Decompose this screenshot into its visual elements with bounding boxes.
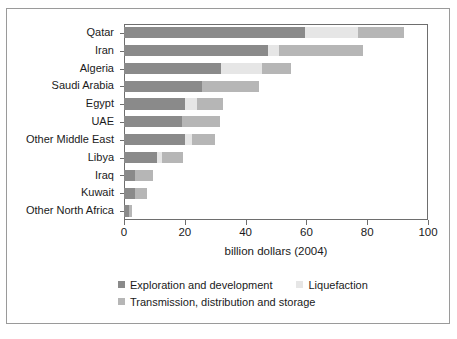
legend-swatch-icon	[118, 298, 125, 305]
y-axis-label: Algeria	[0, 60, 120, 78]
bar-segment[interactable]	[124, 116, 182, 127]
y-axis-label: Saudi Arabia	[0, 77, 120, 95]
legend-item-exploration-and-development[interactable]: Exploration and development	[118, 279, 272, 291]
legend-row-2: Transmission, distribution and storage	[118, 293, 438, 310]
y-axis-label: Libya	[0, 149, 120, 167]
stacked-bar[interactable]	[124, 152, 183, 163]
bar-row	[124, 131, 428, 149]
bar-row	[124, 184, 428, 202]
x-axis-title: billion dollars (2004)	[124, 245, 428, 257]
bar-segment[interactable]	[124, 81, 202, 92]
stacked-bar[interactable]	[124, 170, 153, 181]
bar-row	[124, 24, 428, 42]
y-axis-label: Iran	[0, 42, 120, 60]
bar-segment[interactable]	[124, 45, 268, 56]
y-axis-label: Iraq	[0, 167, 120, 185]
bar-row	[124, 95, 428, 113]
bar-segment[interactable]	[262, 63, 291, 74]
x-axis-tick-label: 100	[418, 226, 437, 238]
legend-item-transmission-distribution-and-storage[interactable]: Transmission, distribution and storage	[118, 296, 315, 308]
bar-segment[interactable]	[221, 63, 262, 74]
x-axis-tick	[367, 220, 368, 225]
stacked-bar[interactable]	[124, 98, 223, 109]
bar-row	[124, 202, 428, 220]
bar-segment[interactable]	[124, 152, 157, 163]
bar-segment[interactable]	[305, 27, 358, 38]
bars-container	[124, 24, 428, 220]
bar-segment[interactable]	[192, 134, 215, 145]
bar-segment[interactable]	[182, 116, 220, 127]
x-axis-tick	[306, 220, 307, 225]
bar-segment[interactable]	[185, 98, 197, 109]
bar-row	[124, 167, 428, 185]
y-axis-category-labels: QatarIranAlgeriaSaudi ArabiaEgyptUAEOthe…	[0, 24, 120, 220]
y-axis-label: Other North Africa	[0, 202, 120, 220]
legend-swatch-icon	[296, 281, 303, 288]
x-axis-tick	[246, 220, 247, 225]
bar-row	[124, 60, 428, 78]
bar-segment[interactable]	[129, 205, 132, 216]
stacked-bar[interactable]	[124, 45, 363, 56]
y-axis-label: UAE	[0, 113, 120, 131]
bar-segment[interactable]	[197, 98, 223, 109]
y-axis-label: Egypt	[0, 95, 120, 113]
x-axis-tick-label: 80	[361, 226, 374, 238]
chart-figure: QatarIranAlgeriaSaudi ArabiaEgyptUAEOthe…	[0, 0, 457, 339]
x-axis-tick	[124, 220, 125, 225]
bar-segment[interactable]	[124, 170, 135, 181]
x-axis-tick-label: 0	[121, 226, 127, 238]
x-axis-tick-label: 40	[239, 226, 252, 238]
legend-item-liquefaction[interactable]: Liquefaction	[296, 279, 367, 291]
y-axis-label: Kuwait	[0, 184, 120, 202]
stacked-bar[interactable]	[124, 116, 220, 127]
bar-segment[interactable]	[358, 27, 404, 38]
bar-segment[interactable]	[124, 188, 135, 199]
legend-label: Liquefaction	[308, 279, 367, 291]
bar-segment[interactable]	[135, 188, 147, 199]
legend-label: Transmission, distribution and storage	[130, 296, 315, 308]
bar-segment[interactable]	[135, 170, 153, 181]
bar-row	[124, 113, 428, 131]
stacked-bar[interactable]	[124, 63, 291, 74]
bar-segment[interactable]	[185, 134, 193, 145]
legend-label: Exploration and development	[130, 279, 272, 291]
y-axis-label: Qatar	[0, 24, 120, 42]
bar-segment[interactable]	[279, 45, 363, 56]
bar-segment[interactable]	[202, 81, 260, 92]
bar-segment[interactable]	[162, 152, 183, 163]
stacked-bar[interactable]	[124, 134, 215, 145]
x-axis-tick	[185, 220, 186, 225]
x-axis-tick-label: 20	[178, 226, 191, 238]
bar-segment[interactable]	[124, 27, 305, 38]
legend-row-1: Exploration and development Liquefaction	[118, 276, 438, 293]
bar-segment[interactable]	[124, 98, 185, 109]
bar-row	[124, 149, 428, 167]
chart-legend: Exploration and development Liquefaction…	[118, 276, 438, 310]
bar-row	[124, 42, 428, 60]
bar-row	[124, 77, 428, 95]
x-axis-tick	[428, 220, 429, 225]
bar-segment[interactable]	[268, 45, 279, 56]
legend-swatch-icon	[118, 281, 125, 288]
x-axis-tick-label: 60	[300, 226, 313, 238]
stacked-bar[interactable]	[124, 188, 147, 199]
stacked-bar[interactable]	[124, 205, 132, 216]
stacked-bar[interactable]	[124, 27, 404, 38]
x-axis-tick-labels: 020406080100	[0, 226, 457, 242]
bar-segment[interactable]	[124, 134, 185, 145]
stacked-bar[interactable]	[124, 81, 259, 92]
bar-segment[interactable]	[124, 63, 221, 74]
plot-wrapper: QatarIranAlgeriaSaudi ArabiaEgyptUAEOthe…	[0, 0, 457, 339]
y-axis-label: Other Middle East	[0, 131, 120, 149]
